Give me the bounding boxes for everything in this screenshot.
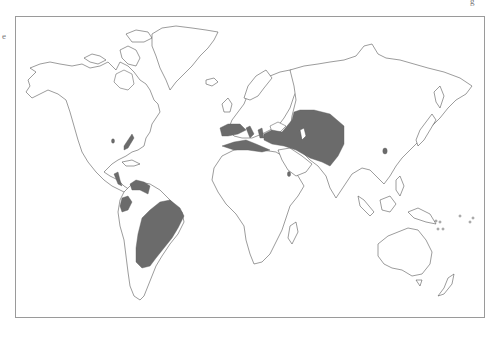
baffin-island — [120, 46, 140, 66]
tasmania — [416, 280, 422, 286]
borneo — [380, 196, 396, 212]
shaded-region-southern-plains — [112, 139, 115, 143]
iceland — [206, 78, 218, 86]
new-zealand — [438, 274, 454, 296]
australia — [378, 228, 432, 276]
sumatra — [358, 196, 374, 216]
pacific-island — [459, 215, 461, 217]
madagascar — [288, 222, 298, 244]
world-map — [0, 0, 504, 339]
new-guinea — [408, 208, 436, 224]
pacific-island — [435, 220, 437, 222]
pacific-island — [469, 221, 471, 223]
cuba — [122, 160, 140, 166]
shaded-region-eastern-china — [383, 148, 387, 154]
pacific-island — [472, 217, 474, 219]
shaded-region-yemen — [287, 171, 290, 176]
arctic-archipelago — [84, 54, 106, 64]
pacific-island — [437, 228, 439, 230]
british-isles — [222, 98, 232, 112]
ellesmere-island — [126, 30, 152, 42]
pacific-island — [439, 221, 441, 223]
shaded-region-north-africa-coast — [222, 140, 270, 152]
pacific-island — [442, 228, 444, 230]
north-america — [26, 62, 160, 194]
philippines — [396, 176, 404, 196]
